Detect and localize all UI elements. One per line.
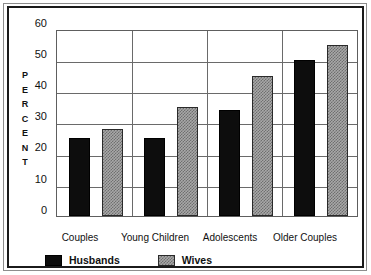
bar-young-children-husbands — [144, 138, 165, 216]
plot-area — [56, 30, 358, 217]
y-axis-title-letter: T — [19, 155, 31, 170]
y-tick-label-50: 50 — [23, 49, 47, 60]
legend-swatch-husbands-icon — [45, 255, 62, 266]
chart-screenshot: P E R C E N T 60 50 40 30 20 10 0 — [0, 0, 371, 275]
legend-label-wives: Wives — [182, 255, 212, 266]
bar-adolescents-wives — [252, 76, 273, 216]
legend-label-husbands: Husbands — [69, 255, 120, 266]
y-tick-label-10: 10 — [23, 174, 47, 185]
group-separator-2 — [207, 31, 208, 216]
legend-swatch-wives-icon — [158, 255, 175, 266]
x-tick-label-young-children: Young Children — [117, 232, 193, 244]
group-separator-1 — [132, 31, 133, 216]
bar-adolescents-husbands — [219, 110, 240, 216]
chart-frame: P E R C E N T 60 50 40 30 20 10 0 — [7, 6, 364, 268]
bar-older-couples-husbands — [294, 60, 315, 216]
y-tick-label-30: 30 — [23, 111, 47, 122]
bar-couples-husbands — [69, 138, 90, 216]
y-tick-label-20: 20 — [23, 142, 47, 153]
group-separator-3 — [282, 31, 283, 216]
bar-older-couples-wives — [327, 45, 348, 216]
bar-young-children-wives — [177, 107, 198, 216]
legend: Husbands Wives — [45, 255, 212, 266]
y-tick-label-60: 60 — [23, 18, 47, 29]
y-tick-label-40: 40 — [23, 80, 47, 91]
y-axis-title-letter: E — [19, 126, 31, 141]
x-tick-label-couples: Couples — [42, 232, 118, 244]
x-tick-label-older-couples: Older Couples — [267, 232, 343, 244]
bar-couples-wives — [102, 129, 123, 216]
y-axis-title-letter: R — [19, 97, 31, 112]
x-tick-label-adolescents: Adolescents — [192, 232, 268, 244]
y-tick-label-0: 0 — [23, 205, 47, 216]
legend-item-husbands: Husbands — [45, 255, 120, 266]
legend-item-wives: Wives — [158, 255, 212, 266]
